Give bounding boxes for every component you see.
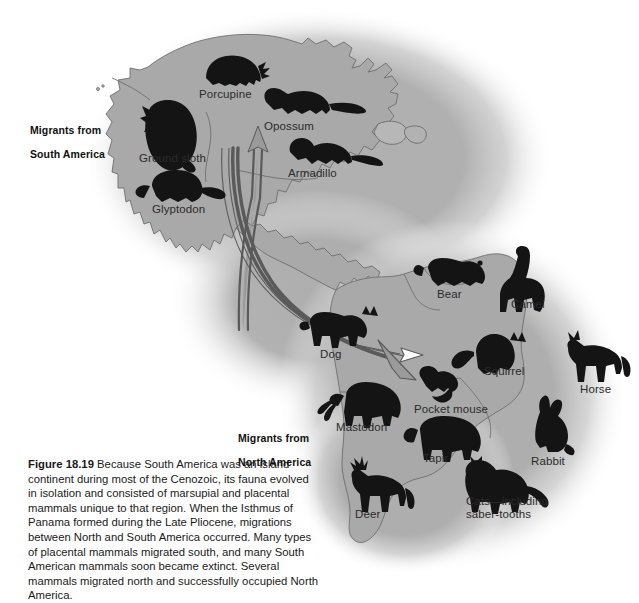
animal-label-ground-sloth: Ground sloth (139, 152, 206, 165)
figure-caption: Figure 18.19 Because South America was a… (28, 457, 320, 603)
animal-label-bear: Bear (437, 288, 462, 301)
migrants-from-south-america-label: Migrants from South America (30, 112, 105, 160)
animal-label-mastodon: Mastodon (336, 421, 387, 434)
animal-label-dog: Dog (320, 348, 341, 361)
animal-label-armadillo: Armadillo (288, 167, 337, 180)
animal-label-tapir: Tapir (423, 452, 448, 465)
animal-label-rabbit: Rabbit (531, 455, 565, 468)
migrants-south-line2: South America (30, 148, 105, 160)
animal-label-porcupine: Porcupine (199, 88, 252, 101)
animal-label-deer: Deer (355, 508, 380, 521)
migrants-north-line1: Migrants from (238, 432, 309, 444)
animal-label-opossum: Opossum (264, 120, 314, 133)
animal-label-squirrel: Squirrel (484, 365, 524, 378)
animal-label-horse: Horse (580, 383, 611, 396)
migrants-south-line1: Migrants from (30, 124, 101, 136)
animal-label-pocket-mouse: Pocket mouse (414, 403, 488, 416)
figure-number: Figure 18.19 (28, 458, 94, 470)
animal-label-camel: Camel (511, 298, 545, 311)
animal-label-cats: Cats—including saber-tooths (466, 495, 548, 520)
animal-label-glyptodon: Glyptodon (152, 203, 205, 216)
figure-caption-text: Because South America was an island cont… (28, 458, 318, 601)
